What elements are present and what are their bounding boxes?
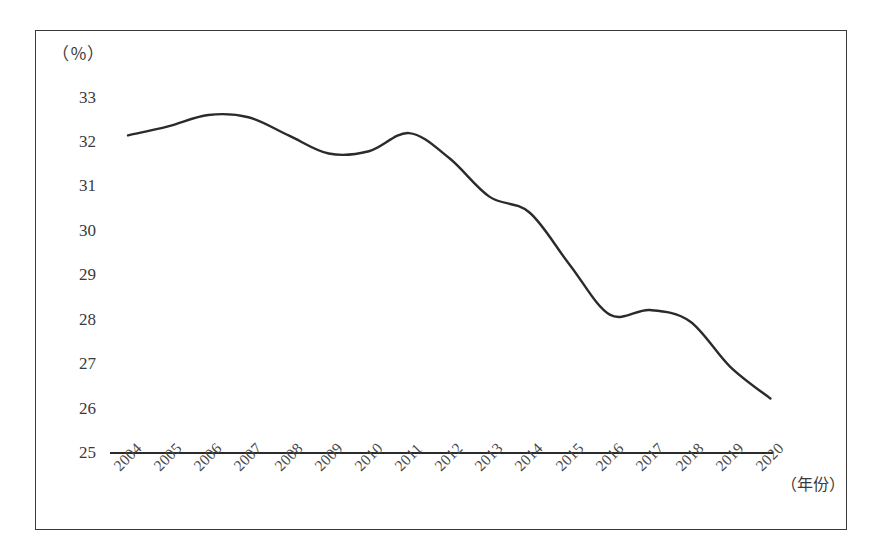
x-tick-label: 2005 [150,439,185,474]
x-tick-label: 2016 [592,439,627,474]
x-tick-label: 2017 [632,439,667,474]
x-tick-label: 2014 [511,439,546,474]
x-tick-label: 2013 [471,439,506,474]
x-tick-label: 2011 [391,440,426,475]
x-tick-label: 2006 [190,439,225,474]
x-tick-label: 2008 [271,439,306,474]
x-axis-unit-label: （年份） [781,471,845,495]
x-tick-label: 2012 [431,439,466,474]
chart-page: （％） 33 32 31 30 29 28 27 26 25 200420052… [0,0,875,559]
x-tick-label: 2020 [752,439,787,474]
x-tick-label: 2004 [110,439,145,474]
x-tick-label: 2018 [672,439,707,474]
x-tick-label: 2019 [712,439,747,474]
x-tick-label: 2007 [230,439,265,474]
x-tick-label: 2009 [311,439,346,474]
x-tick-label: 2015 [552,439,587,474]
x-axis-tick-labels: 2004200520062007200820092010201120122013… [0,0,875,559]
x-tick-label: 2010 [351,439,386,474]
